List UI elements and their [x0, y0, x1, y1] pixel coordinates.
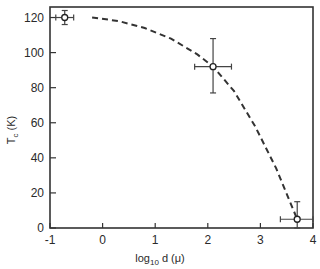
- y-tick-label: 40: [31, 151, 45, 165]
- data-points: [56, 11, 313, 228]
- data-point: [56, 11, 74, 25]
- data-point: [195, 39, 232, 93]
- x-tick-label: 0: [99, 233, 106, 247]
- y-tick-label: 120: [24, 11, 44, 25]
- fit-curve: [92, 18, 297, 220]
- x-tick-label: -1: [45, 233, 56, 247]
- x-tick-label: 3: [257, 233, 264, 247]
- tick-labels: -101234020406080100120: [24, 11, 317, 247]
- x-tick-label: 2: [204, 233, 211, 247]
- y-axis-label: Tc (K): [5, 116, 20, 144]
- chart: -101234020406080100120 log10 d (μ) Tc (K…: [0, 0, 320, 269]
- x-tick-label: 1: [152, 233, 159, 247]
- y-tick-label: 60: [31, 116, 45, 130]
- y-tick-label: 0: [37, 221, 44, 235]
- x-axis-label: log10 d (μ): [135, 252, 185, 267]
- axis-ticks: [50, 18, 313, 228]
- y-tick-label: 100: [24, 46, 44, 60]
- y-tick-label: 20: [31, 186, 45, 200]
- x-tick-label: 4: [310, 233, 317, 247]
- y-tick-label: 80: [31, 81, 45, 95]
- data-point: [280, 202, 313, 228]
- plot-frame: [50, 7, 313, 228]
